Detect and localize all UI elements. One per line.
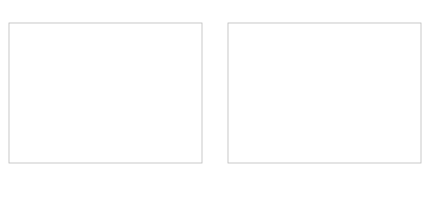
sound-speed-panel xyxy=(9,23,202,163)
left-axes-box xyxy=(9,23,202,163)
figure xyxy=(0,0,432,201)
right-axes-box xyxy=(228,23,421,163)
ray-trace-panel xyxy=(228,23,421,163)
